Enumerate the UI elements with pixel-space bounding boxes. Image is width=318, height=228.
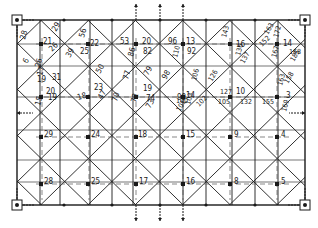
load-arrow-icon bbox=[158, 205, 162, 221]
support-bottom-right bbox=[287, 187, 310, 210]
diagonal-falling bbox=[0, 0, 277, 228]
node-dot bbox=[86, 135, 90, 139]
load-arrow-icon bbox=[181, 4, 185, 20]
node-label: 56 bbox=[77, 27, 88, 39]
joint-dot bbox=[62, 203, 65, 206]
diagonal-falling bbox=[277, 0, 318, 228]
support-pin bbox=[303, 203, 307, 207]
diagonal-rising bbox=[0, 0, 229, 228]
node-label: 19 bbox=[48, 93, 58, 102]
arrow-head bbox=[158, 218, 162, 221]
node-label: 18 bbox=[76, 91, 88, 102]
node-label: 25 bbox=[91, 177, 100, 186]
node-label: 96 bbox=[168, 37, 178, 46]
joint-dot bbox=[110, 18, 113, 21]
node-label: 102 bbox=[195, 94, 209, 108]
load-arrow-icon bbox=[134, 4, 138, 20]
node-label: 29 bbox=[44, 130, 54, 139]
node-dot bbox=[228, 42, 232, 46]
diagonal-rising bbox=[88, 0, 318, 228]
node-label: 82 bbox=[143, 47, 152, 56]
node-dot bbox=[181, 42, 185, 46]
node-dot bbox=[134, 182, 138, 186]
node-label: 24 bbox=[91, 130, 101, 139]
node-label: 10 bbox=[236, 87, 246, 96]
node-label: 53 bbox=[120, 37, 129, 46]
node-label: 28 bbox=[18, 29, 29, 41]
diagonal-rising bbox=[0, 0, 277, 228]
node-label: 9 bbox=[234, 130, 239, 139]
node-dot bbox=[86, 182, 90, 186]
node-dot bbox=[134, 42, 138, 46]
support-bottom-left bbox=[12, 187, 35, 210]
diagonal-falling bbox=[182, 0, 318, 228]
support-pin bbox=[15, 18, 19, 22]
node-label: 20 bbox=[142, 37, 152, 46]
load-arrow-icon bbox=[134, 205, 138, 221]
load-arrow-icon bbox=[289, 111, 305, 115]
node-label: 126 bbox=[207, 69, 220, 83]
node-label: 106 bbox=[190, 68, 201, 82]
diagonal-rising bbox=[277, 0, 318, 228]
node-dot bbox=[275, 135, 279, 139]
node-label: 13 bbox=[186, 37, 195, 46]
node-label: 15 bbox=[186, 130, 195, 139]
support-pin bbox=[303, 18, 307, 22]
node-label: 17 bbox=[139, 177, 148, 186]
structural-grid-diagram: 2821262956222539532082869613921101431613… bbox=[0, 0, 318, 228]
node-label: 14 bbox=[283, 39, 293, 48]
node-label: 152 bbox=[258, 34, 272, 48]
node-label: 98 bbox=[160, 68, 173, 81]
node-label: 169 bbox=[280, 99, 291, 113]
node-dot bbox=[275, 95, 279, 99]
node-label: 16 bbox=[186, 177, 196, 186]
node-dot bbox=[275, 42, 279, 46]
node-label: 31 bbox=[52, 73, 61, 82]
diagonal-rising bbox=[182, 0, 318, 228]
node-label: 4 bbox=[281, 130, 286, 139]
arrow-head bbox=[181, 218, 185, 221]
node-dot bbox=[228, 135, 232, 139]
node-label: 8 bbox=[234, 177, 239, 186]
node-label: 3 bbox=[286, 91, 291, 100]
node-dot bbox=[39, 135, 43, 139]
arrow-head bbox=[134, 218, 138, 221]
diagonal-falling bbox=[0, 0, 229, 228]
support-pin bbox=[15, 203, 19, 207]
node-label: 92 bbox=[187, 47, 196, 56]
node-label: 143 bbox=[220, 25, 231, 39]
node-label: 39 bbox=[64, 46, 77, 59]
node-dot bbox=[39, 182, 43, 186]
node-label: 132 bbox=[240, 98, 252, 106]
joint-dot bbox=[204, 203, 207, 206]
arrow-head bbox=[158, 4, 162, 7]
joint-dot bbox=[253, 203, 256, 206]
node-dot bbox=[181, 182, 185, 186]
node-label: 6 bbox=[21, 56, 31, 65]
joint-dot bbox=[110, 203, 113, 206]
arrow-head bbox=[181, 4, 185, 7]
node-label: 25 bbox=[80, 47, 89, 56]
node-dot bbox=[181, 135, 185, 139]
node-label: 5 bbox=[281, 177, 286, 186]
support-top-right bbox=[287, 15, 310, 38]
diagonal-falling bbox=[88, 0, 318, 228]
node-label: 19 bbox=[143, 84, 153, 93]
node-label: 50 bbox=[94, 62, 107, 75]
joint-dot bbox=[253, 18, 256, 21]
joint-dot bbox=[204, 18, 207, 21]
dashed-reference-lines bbox=[36, 38, 290, 200]
node-label: 127 bbox=[220, 88, 232, 96]
node-dot bbox=[275, 182, 279, 186]
node-label: 172 bbox=[272, 25, 283, 39]
node-label: 105 bbox=[218, 98, 230, 106]
node-dot bbox=[228, 182, 232, 186]
node-label: 22 bbox=[90, 39, 99, 48]
load-arrow-icon bbox=[181, 205, 185, 221]
arrow-head bbox=[134, 4, 138, 7]
node-label: 167 bbox=[270, 45, 281, 59]
node-label: 70 bbox=[110, 91, 121, 103]
node-label: 155 bbox=[262, 98, 274, 106]
node-label: 72 bbox=[129, 92, 140, 103]
node-label: 110 bbox=[171, 45, 182, 59]
